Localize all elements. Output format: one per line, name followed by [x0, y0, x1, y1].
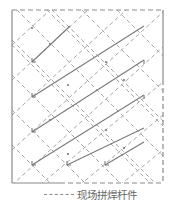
truss-grid-diagram: [0, 0, 172, 206]
legend-label: 现场拼焊杆件: [77, 187, 137, 202]
diagram-canvas: 现场拼焊杆件: [0, 0, 172, 206]
dashed-members-down: [0, 0, 172, 206]
legend: 现场拼焊杆件: [44, 186, 137, 202]
dashed-line-icon: [44, 194, 74, 195]
solid-members: [32, 26, 144, 165]
